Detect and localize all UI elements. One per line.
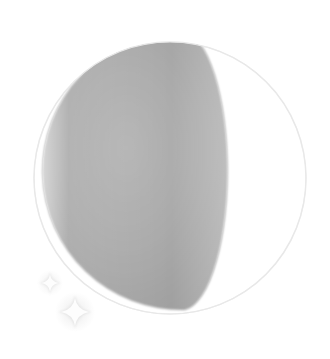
sparkle-small-icon [37, 270, 63, 296]
moon-illustration-canvas [0, 0, 330, 359]
sparkle-large-icon [55, 292, 95, 332]
moon-illustration [0, 0, 330, 359]
